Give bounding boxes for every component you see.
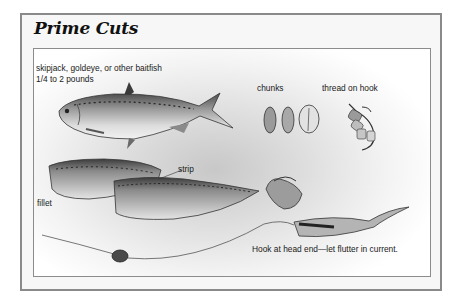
strip-label: strip — [178, 163, 194, 174]
weight-label: 1/4 to 2 pounds — [36, 73, 94, 84]
illustration-panel: skipjack, goldeye, or other baitfish 1/4… — [33, 48, 431, 277]
chunks-label: chunks — [257, 82, 283, 93]
threaded-hook-icon — [347, 104, 375, 150]
whole-baitfish-icon — [59, 82, 233, 149]
hook-caption: Hook at head end—let flutter in current. — [252, 243, 398, 254]
thread-on-hook-label: thread on hook — [322, 82, 378, 93]
page-title: Prime Cuts — [34, 18, 138, 38]
fillet-label: fillet — [37, 197, 52, 208]
baitfish-label: skipjack, goldeye, or other baitfish — [36, 62, 162, 73]
chunks-icon — [264, 105, 319, 133]
curled-strip-icon — [266, 177, 302, 209]
